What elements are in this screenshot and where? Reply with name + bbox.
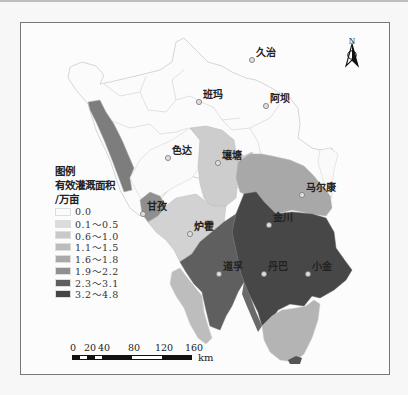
city-label: 壤塘 [222, 149, 242, 161]
city-label: 久治 [255, 46, 276, 58]
scale-tick: 20 [84, 342, 96, 353]
legend-subtitle: 有效灌溉面积 [55, 178, 119, 192]
scale-tick: 0 [70, 342, 76, 353]
city-marker-icon [140, 211, 145, 216]
city-label: 班玛 [203, 88, 223, 100]
city-marker-icon [299, 192, 304, 197]
city-marker-icon [216, 271, 221, 276]
legend-unit: /万亩 [55, 192, 119, 206]
north-arrow: N [342, 36, 362, 46]
city-label: 甘孜 [147, 200, 168, 212]
city-marker-icon [305, 271, 310, 276]
legend-swatch [55, 208, 71, 216]
legend-swatch [55, 267, 71, 275]
city-marker-icon [196, 99, 201, 104]
city-marker-icon [249, 57, 254, 62]
legend-swatch [55, 231, 71, 239]
city-label: 道孚 [223, 260, 243, 272]
legend-title: 图例 [55, 164, 119, 178]
city-marker-icon [263, 103, 268, 108]
city-label: 炉霍 [194, 220, 214, 232]
city-marker-icon [261, 271, 266, 276]
city-label: 马尔康 [306, 181, 337, 193]
legend: 图例 有效灌溉面积 /万亩 0.0 0.1～0.5 0.6～1.0 1.1～1.… [55, 164, 119, 300]
legend-row: 3.2～4.8 [55, 289, 119, 301]
north-arrow-icon [346, 44, 358, 66]
scale-bar: 0 20 40 80 120 160 km [70, 342, 210, 354]
scale-tick: 80 [128, 342, 140, 353]
north-label: N [342, 36, 362, 46]
city-label: 色达 [172, 144, 192, 156]
legend-swatch [55, 243, 71, 251]
legend-swatch [55, 220, 71, 228]
city-label: 小金 [311, 260, 333, 272]
scale-ticks: 0 20 40 80 120 160 [70, 342, 210, 354]
scale-tick: 40 [98, 342, 110, 353]
scale-tick: 120 [155, 342, 173, 353]
scale-bar-graphic [72, 355, 192, 360]
legend-swatch [55, 279, 71, 287]
city-label: 丹巴 [268, 261, 288, 272]
city-marker-icon [215, 160, 220, 165]
city-marker-icon [266, 222, 271, 227]
legend-label: 3.2～4.8 [75, 287, 119, 301]
legend-classes: 0.0 0.1～0.5 0.6～1.0 1.1～1.5 1.6～1.8 1.9～… [55, 206, 119, 300]
legend-swatch [55, 255, 71, 263]
legend-swatch [55, 290, 71, 298]
city-label: 阿坝 [270, 92, 290, 104]
city-marker-icon [165, 155, 170, 160]
scale-unit: km [198, 352, 214, 363]
city-label: 金川 [272, 211, 293, 223]
city-marker-icon [187, 231, 192, 236]
